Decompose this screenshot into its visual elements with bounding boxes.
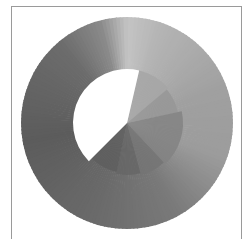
polar-chart [0,0,247,239]
